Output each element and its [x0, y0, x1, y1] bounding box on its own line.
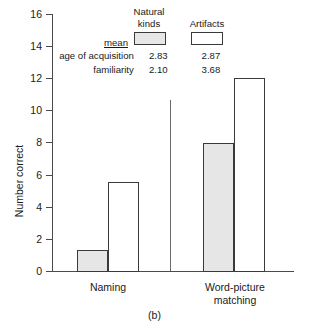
y-tick-8 — [46, 142, 52, 143]
mean-values-table: age of acquisition 2.83 2.87 familiarity… — [44, 50, 239, 78]
x-label-word-picture-matching: Word-picture matching — [192, 281, 278, 306]
y-tick-2 — [46, 239, 52, 240]
figure-caption: (b) — [0, 309, 309, 321]
legend-natural-line2: kinds — [138, 18, 160, 29]
y-axis-title: Number correct — [13, 121, 25, 241]
group-separator-line — [170, 100, 171, 271]
legend-headers: Natural kinds Artifacts — [44, 6, 269, 32]
y-tick-label-10: 10 — [2, 105, 42, 115]
y-tick-4 — [46, 207, 52, 208]
x-label-wordpic-line2: matching — [214, 294, 257, 306]
mean-label: mean — [44, 37, 128, 48]
x-label-naming: Naming — [68, 281, 148, 294]
bar-naming-artifacts — [108, 182, 139, 272]
mean-row2-name: familiarity — [44, 64, 134, 78]
x-label-wordpic-line1: Word-picture — [205, 281, 265, 293]
mean-row2-natural: 2.10 — [134, 64, 183, 78]
mean-row2-artifacts: 3.68 — [183, 64, 239, 78]
legend-header-natural-kinds: Natural kinds — [122, 6, 176, 29]
x-label-naming-text: Naming — [90, 281, 126, 293]
y-tick-0 — [46, 271, 52, 272]
legend-natural-line1: Natural — [134, 6, 165, 17]
y-tick-label-0: 0 — [2, 266, 42, 276]
legend-header-artifacts: Artifacts — [179, 18, 235, 30]
table-row: familiarity 2.10 3.68 — [44, 64, 239, 78]
mean-row1-artifacts: 2.87 — [183, 50, 239, 64]
y-tick-12 — [46, 78, 52, 79]
table-row: age of acquisition 2.83 2.87 — [44, 50, 239, 64]
y-tick-label-12: 12 — [2, 73, 42, 83]
y-tick-10 — [46, 110, 52, 111]
legend-swatch-artifacts — [191, 32, 223, 45]
bar-chart-figure: 0 2 4 6 8 10 12 14 16 Number correct Nam… — [0, 0, 309, 330]
legend-and-mean-table: Natural kinds Artifacts mean age of acqu… — [44, 6, 269, 48]
mean-row1-natural: 2.83 — [134, 50, 183, 64]
y-tick-label-16: 16 — [2, 9, 42, 19]
legend-swatch-natural-kinds — [134, 32, 166, 45]
bar-naming-natural-kinds — [77, 250, 108, 272]
mean-row1-name: age of acquisition — [44, 50, 134, 64]
bar-wordpicture-artifacts — [234, 78, 265, 272]
y-tick-6 — [46, 175, 52, 176]
y-tick-label-14: 14 — [2, 41, 42, 51]
bar-wordpicture-natural-kinds — [203, 143, 234, 272]
